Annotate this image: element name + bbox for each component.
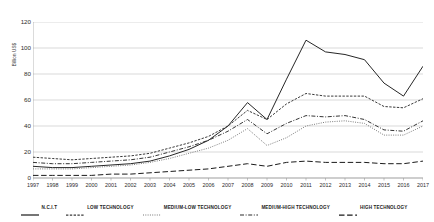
legend-item[interactable]: MEDIUM-LOW TECHNOLOGY <box>143 204 232 210</box>
chart-legend: N.C.I.TLOW TECHNOLOGYMEDIUM-LOW TECHNOLO… <box>0 200 428 214</box>
legend-item[interactable]: LOW TECHNOLOGY <box>66 204 134 210</box>
series-line <box>33 161 423 175</box>
legend-label: LOW TECHNOLOGY <box>87 205 134 210</box>
series-line <box>33 94 423 160</box>
legend-swatch-icon <box>339 204 357 210</box>
legend-label: MEDIUM-HIGH TECHNOLOGY <box>261 205 330 210</box>
legend-label: N.C.I.T <box>42 205 58 210</box>
legend-label: MEDIUM-LOW TECHNOLOGY <box>164 205 232 210</box>
series-line <box>33 40 423 167</box>
series-line <box>33 116 423 164</box>
legend-swatch-icon <box>21 204 39 210</box>
y-tick-label: 40 <box>9 123 31 129</box>
x-axis-tick-labels: 1997199819992000200120022003200420052006… <box>33 182 423 194</box>
y-tick-label: 20 <box>9 149 31 155</box>
y-tick-label: 100 <box>9 45 31 51</box>
y-tick-label: 80 <box>9 71 31 77</box>
plot-area <box>33 22 423 178</box>
x-tick-label: 2017 <box>412 182 434 188</box>
y-tick-label: 0 <box>9 175 31 181</box>
legend-item[interactable]: MEDIUM-HIGH TECHNOLOGY <box>240 204 330 210</box>
legend-item[interactable]: N.C.I.T <box>21 204 58 210</box>
legend-swatch-icon <box>240 204 258 210</box>
legend-swatch-icon <box>66 204 84 210</box>
legend-item[interactable]: HIGH TECHNOLOGY <box>339 204 407 210</box>
legend-label: HIGH TECHNOLOGY <box>360 205 407 210</box>
y-tick-label: 120 <box>9 19 31 25</box>
y-tick-label: 60 <box>9 97 31 103</box>
y-axis-tick-labels: 020406080100120 <box>5 0 31 200</box>
legend-swatch-icon <box>143 204 161 210</box>
series-line <box>33 121 423 169</box>
